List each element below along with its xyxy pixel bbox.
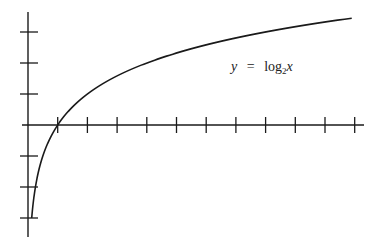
label-equals: = [247, 59, 255, 74]
function-label: y = log2x [231, 59, 293, 76]
log2-curve [32, 18, 352, 218]
label-lhs: y [231, 59, 237, 74]
log-plot [0, 0, 376, 250]
label-fn: log [264, 59, 282, 74]
label-arg: x [287, 59, 293, 74]
